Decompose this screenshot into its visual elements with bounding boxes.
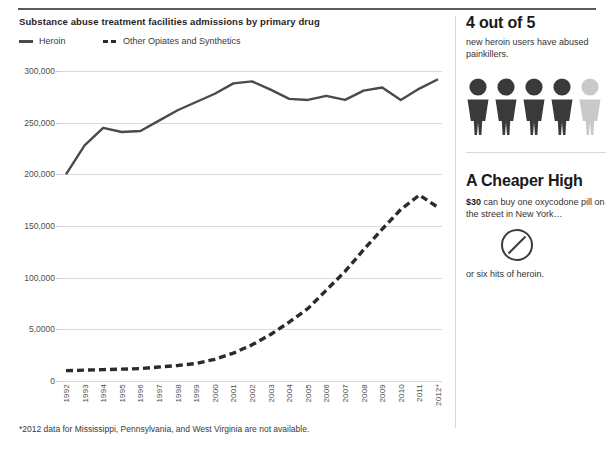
stat-body: new heroin users have abused painkillers… xyxy=(466,36,606,60)
x-axis-tick-label: 2007 xyxy=(341,384,350,403)
heroin-bag-icon xyxy=(562,344,604,392)
x-axis-tick-label: 2006 xyxy=(322,384,331,403)
legend-dashed-line-icon xyxy=(103,40,117,43)
x-axis-tick-label: 1994 xyxy=(99,384,108,403)
x-axis-tick-label: 1997 xyxy=(155,384,164,403)
people-pictogram-row xyxy=(466,78,609,136)
x-axis-tick-label: 1999 xyxy=(192,384,201,403)
x-axis-tick-label: 2009 xyxy=(378,384,387,403)
pill-icon xyxy=(500,228,534,262)
infographic-root: Substance abuse treatment facilities adm… xyxy=(0,0,609,458)
heroin-bag-grid xyxy=(466,288,609,392)
legend-solid-line-icon xyxy=(19,40,33,43)
price-body: $30 can buy one oxycodone pill on the st… xyxy=(466,196,606,220)
person-icon xyxy=(578,78,602,136)
x-axis-tick-label: 2003 xyxy=(267,384,276,403)
person-icon xyxy=(550,78,574,136)
x-axis-tick-label: 2010 xyxy=(397,384,406,403)
price-caption: or six hits of heroin. xyxy=(466,268,606,280)
x-axis-tick-label: 2004 xyxy=(285,384,294,403)
heroin-bag-icon xyxy=(466,288,508,336)
person-icon xyxy=(466,78,490,136)
x-axis-tick-label: 1998 xyxy=(174,384,183,403)
y-axis-tick-label: 250,000 xyxy=(24,118,55,128)
sidebar-section-divider xyxy=(466,152,606,153)
x-axis-tick-label: 1992 xyxy=(62,384,71,403)
legend-label-other-opiates: Other Opiates and Synthetics xyxy=(123,36,241,46)
y-axis-tick-label: 150,000 xyxy=(24,221,55,231)
y-axis-tick-label: 300,000 xyxy=(24,66,55,76)
series-canvas xyxy=(62,71,442,381)
legend-item-heroin: Heroin xyxy=(19,36,66,46)
person-icon xyxy=(494,78,518,136)
series-line-heroin xyxy=(66,79,438,174)
series-line-other-opiates-and-synthetics xyxy=(66,195,438,371)
price-amount: $30 xyxy=(466,197,481,207)
legend-label-heroin: Heroin xyxy=(39,36,66,46)
y-axis-tick-label: 100,000 xyxy=(24,273,55,283)
stat-headline: 4 out of 5 xyxy=(466,14,535,32)
person-icon xyxy=(522,78,546,136)
price-headline: A Cheaper High xyxy=(466,172,583,190)
x-axis-tick-label: 1996 xyxy=(136,384,145,403)
x-axis-tick-label: 1993 xyxy=(81,384,90,403)
legend-item-other-opiates: Other Opiates and Synthetics xyxy=(103,36,241,46)
plot-area: 300,000250,000200,000150,000100,0005,000… xyxy=(62,71,442,381)
y-axis-tick-label: 0 xyxy=(50,376,55,386)
y-axis-tick-label: 200,000 xyxy=(24,169,55,179)
heroin-bag-icon xyxy=(466,344,508,392)
y-axis-tick-label: 5,0000 xyxy=(29,324,55,334)
x-axis-tick-label: 2008 xyxy=(360,384,369,403)
x-axis-tick-label: 1995 xyxy=(118,384,127,403)
x-axis-tick-label: 2012* xyxy=(434,384,443,406)
chart-panel: Substance abuse treatment facilities adm… xyxy=(0,0,455,458)
x-axis-tick-label: 2001 xyxy=(229,384,238,403)
panel-divider xyxy=(455,16,456,428)
chart-title: Substance abuse treatment facilities adm… xyxy=(19,16,320,27)
x-axis-tick-label: 2000 xyxy=(211,384,220,403)
heroin-bag-icon xyxy=(514,288,556,336)
heroin-bag-icon xyxy=(562,288,604,336)
sidebar-panel: 4 out of 5 new heroin users have abused … xyxy=(466,0,609,458)
x-axis-tick-label: 2011 xyxy=(415,384,424,402)
gridline xyxy=(62,381,442,382)
y-axis-tick-mark xyxy=(56,381,62,382)
x-axis-tick-label: 2005 xyxy=(304,384,313,403)
chart-footnote: *2012 data for Mississippi, Pennsylvania… xyxy=(19,424,309,434)
x-axis-tick-label: 2002 xyxy=(248,384,257,403)
price-body-rest: can buy one oxycodone pill on the street… xyxy=(466,197,605,219)
heroin-bag-icon xyxy=(514,344,556,392)
